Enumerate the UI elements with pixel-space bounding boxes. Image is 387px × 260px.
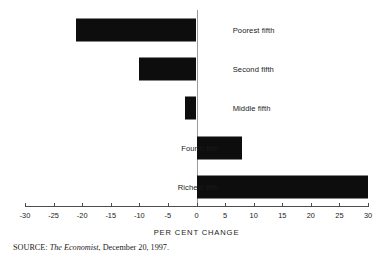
x-tick-mark xyxy=(254,203,255,207)
x-tick-mark xyxy=(111,203,112,207)
x-tick-label: -20 xyxy=(77,211,88,220)
bar xyxy=(76,18,196,41)
chart-figure: Poorest fifthSecond fifthMiddle fifthFou… xyxy=(0,0,387,260)
bar-category-label: Richest fifth xyxy=(178,183,219,192)
x-tick-label: -15 xyxy=(105,211,116,220)
bar-category-label: Fourth fifth xyxy=(181,143,219,152)
x-tick-mark xyxy=(139,203,140,207)
x-tick-label: 25 xyxy=(335,211,343,220)
x-tick-mark xyxy=(54,203,55,207)
x-tick-mark xyxy=(82,203,83,207)
x-tick-label: 5 xyxy=(223,211,227,220)
x-tick-mark xyxy=(339,203,340,207)
bar-row: Fourth fifth xyxy=(25,128,368,167)
source-suffix: , December 20, 1997. xyxy=(99,243,169,252)
x-tick-label: -30 xyxy=(20,211,31,220)
x-tick-mark xyxy=(25,203,26,207)
bar xyxy=(197,176,369,199)
bar xyxy=(185,97,196,120)
bar-row: Middle fifth xyxy=(25,89,368,128)
x-tick-mark xyxy=(168,203,169,207)
x-tick-label: -5 xyxy=(165,211,172,220)
bar-category-label: Middle fifth xyxy=(233,104,271,113)
bar-category-label: Second fifth xyxy=(233,65,274,74)
bar xyxy=(139,58,196,81)
x-tick-mark xyxy=(368,203,369,207)
bar-category-label: Poorest fifth xyxy=(233,25,275,34)
x-tick-label: 10 xyxy=(250,211,258,220)
x-tick-label: 30 xyxy=(364,211,372,220)
bar-row: Second fifth xyxy=(25,49,368,88)
x-tick-label: 20 xyxy=(307,211,315,220)
x-tick-mark xyxy=(311,203,312,207)
x-tick-label: -25 xyxy=(48,211,59,220)
bar-row: Richest fifth xyxy=(25,168,368,207)
x-tick-mark xyxy=(197,203,198,207)
x-tick-label: 15 xyxy=(278,211,286,220)
source-prefix: SOURCE: xyxy=(13,243,48,252)
plot-area: Poorest fifthSecond fifthMiddle fifthFou… xyxy=(25,10,368,207)
x-axis-line: -30-25-20-15-10-5051015202530 xyxy=(25,206,368,207)
x-tick-label: -10 xyxy=(134,211,145,220)
x-tick-mark xyxy=(282,203,283,207)
x-axis-title: PER CENT CHANGE xyxy=(25,228,368,237)
bar-row: Poorest fifth xyxy=(25,10,368,49)
x-tick-label: 0 xyxy=(194,211,198,220)
source-note: SOURCE: The Economist, December 20, 1997… xyxy=(13,243,169,252)
x-tick-mark xyxy=(225,203,226,207)
source-publication: The Economist xyxy=(50,243,99,252)
